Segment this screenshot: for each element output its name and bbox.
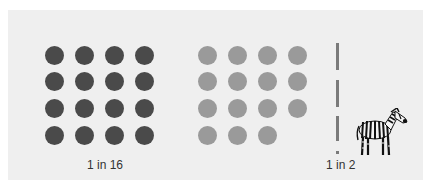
dot bbox=[258, 126, 277, 145]
dot bbox=[75, 46, 94, 65]
dot bbox=[198, 99, 217, 118]
dot bbox=[198, 46, 217, 65]
label-1-in-2: 1 in 2 bbox=[326, 158, 355, 172]
dot bbox=[135, 46, 154, 65]
dot bbox=[75, 72, 94, 91]
dot bbox=[228, 99, 247, 118]
dot bbox=[105, 126, 124, 145]
dot bbox=[45, 72, 64, 91]
dash-segment bbox=[336, 43, 339, 70]
dash-segment bbox=[336, 80, 339, 107]
dot bbox=[288, 46, 307, 65]
dot bbox=[258, 72, 277, 91]
dot bbox=[75, 126, 94, 145]
dash-segment bbox=[336, 116, 339, 141]
dot bbox=[135, 99, 154, 118]
dot bbox=[198, 126, 217, 145]
label-1-in-16: 1 in 16 bbox=[87, 158, 123, 172]
dot bbox=[75, 99, 94, 118]
dash-dot bbox=[336, 151, 339, 154]
dot bbox=[288, 99, 307, 118]
dot bbox=[105, 99, 124, 118]
dot bbox=[45, 126, 64, 145]
dot bbox=[105, 46, 124, 65]
dot bbox=[198, 72, 217, 91]
dot bbox=[45, 99, 64, 118]
dot bbox=[105, 72, 124, 91]
dot bbox=[258, 99, 277, 118]
dot bbox=[288, 72, 307, 91]
dot bbox=[135, 126, 154, 145]
dot bbox=[228, 72, 247, 91]
dot bbox=[228, 126, 247, 145]
dot bbox=[45, 46, 64, 65]
dot bbox=[135, 72, 154, 91]
dot bbox=[258, 46, 277, 65]
dot bbox=[228, 46, 247, 65]
zebra-icon bbox=[355, 108, 409, 158]
